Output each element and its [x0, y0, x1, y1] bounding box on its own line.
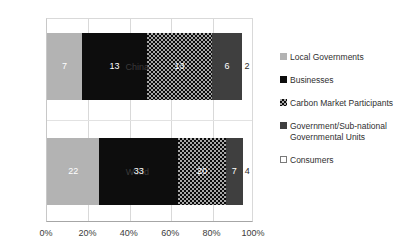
segment-value-label: 20 — [197, 167, 207, 176]
segment-world-government-units[interactable]: 7 — [226, 138, 243, 205]
legend-swatch-icon — [280, 156, 287, 163]
segment-world-local-governments[interactable]: 22 — [47, 138, 99, 205]
segment-value-label: 7 — [232, 167, 237, 176]
category-separator — [47, 120, 252, 121]
legend-swatch-icon — [280, 99, 287, 106]
segment-value-label: 4 — [245, 167, 250, 176]
plot-area: 7 13 13 6 2 22 33 20 — [46, 18, 253, 222]
segment-value-label: 6 — [224, 62, 229, 71]
segment-value-label: 13 — [175, 62, 185, 71]
legend-label: Local Governments — [290, 52, 364, 63]
legend-swatch-icon — [280, 122, 287, 129]
segment-china-consumers[interactable]: 2 — [242, 33, 252, 100]
segment-china-government-units[interactable]: 6 — [212, 33, 242, 100]
chart-figure: 7 13 13 6 2 22 33 20 — [0, 0, 407, 250]
legend-item-carbon-market-participants[interactable]: Carbon Market Participants — [280, 98, 405, 109]
segment-value-label: 7 — [62, 62, 67, 71]
segment-china-carbon-market-participants[interactable]: 13 — [147, 33, 212, 100]
legend-label: Businesses — [290, 75, 333, 86]
legend-item-businesses[interactable]: Businesses — [280, 75, 405, 86]
segment-value-label: 22 — [68, 167, 78, 176]
x-axis-tick-60: 60% — [161, 228, 179, 238]
legend-label: Government/Sub-national Governmental Uni… — [290, 121, 405, 143]
segment-world-consumers[interactable]: 4 — [243, 138, 252, 205]
bar-china[interactable]: 7 13 13 6 2 — [47, 33, 252, 100]
segment-world-carbon-market-participants[interactable]: 20 — [178, 138, 226, 205]
bar-world[interactable]: 22 33 20 7 4 — [47, 138, 252, 205]
legend-swatch-icon — [280, 76, 287, 83]
x-axis-tick-80: 80% — [203, 228, 221, 238]
segment-value-label: 13 — [110, 62, 120, 71]
x-axis-tick-0: 0% — [39, 228, 52, 238]
legend-label: Carbon Market Participants — [290, 98, 393, 109]
x-axis-tick-40: 40% — [120, 228, 138, 238]
x-axis-tick-100: 100% — [241, 228, 264, 238]
x-axis-tick-20: 20% — [78, 228, 96, 238]
legend-item-local-governments[interactable]: Local Governments — [280, 52, 405, 63]
segment-value-label: 2 — [244, 62, 249, 71]
legend-item-government-units[interactable]: Government/Sub-national Governmental Uni… — [280, 121, 405, 143]
legend-item-consumers[interactable]: Consumers — [280, 155, 405, 166]
legend-label: Consumers — [290, 155, 333, 166]
legend-swatch-icon — [280, 53, 287, 60]
chart-legend: Local Governments Businesses Carbon Mark… — [280, 52, 405, 166]
segment-value-label: 33 — [134, 167, 144, 176]
segment-china-local-governments[interactable]: 7 — [47, 33, 82, 100]
